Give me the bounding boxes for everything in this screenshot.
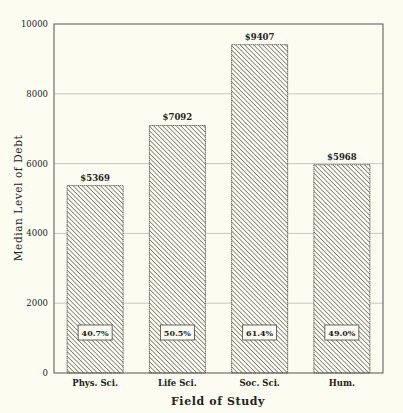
y-tick-label: 4000 [26,228,48,238]
chart-canvas: $536940.7%$709250.5%$940761.4%$596849.0%… [0,0,403,413]
x-tick-label: Life Sci. [158,378,197,388]
bar-chart: $536940.7%$709250.5%$940761.4%$596849.0%… [0,0,403,413]
bar-value-label: $7092 [163,112,193,122]
x-axis-ticks: Phys. Sci.Life Sci.Soc. Sci.Hum. [72,378,355,388]
y-axis-ticks: 0200040006000800010000 [21,19,48,378]
bars: $536940.7%$709250.5%$940761.4%$596849.0% [67,32,370,373]
percent-label: 61.4% [246,328,273,338]
x-tick-label: Soc. Sci. [239,378,279,388]
x-axis-label: Field of Study [171,395,265,408]
bar-group: $940761.4% [232,32,288,373]
bar [67,186,123,373]
percent-label: 49.0% [328,328,355,338]
bar-group: $596849.0% [314,152,370,373]
x-tick-label: Hum. [329,378,355,388]
bar-value-label: $5968 [327,152,357,162]
bar-value-label: $5369 [80,173,110,183]
bar [314,165,370,373]
percent-label: 40.7% [82,328,109,338]
bar-group: $536940.7% [67,173,123,373]
y-tick-label: 10000 [21,19,48,29]
bar-group: $709250.5% [149,112,205,373]
y-tick-label: 2000 [26,298,48,308]
y-tick-label: 0 [43,368,48,378]
y-tick-label: 6000 [26,159,48,169]
bar [232,45,288,373]
y-tick-label: 8000 [26,89,48,99]
bar-value-label: $9407 [245,32,275,42]
percent-label: 50.5% [164,328,191,338]
x-tick-label: Phys. Sci. [72,378,118,388]
y-axis-label: Median Level of Debt [12,135,24,262]
